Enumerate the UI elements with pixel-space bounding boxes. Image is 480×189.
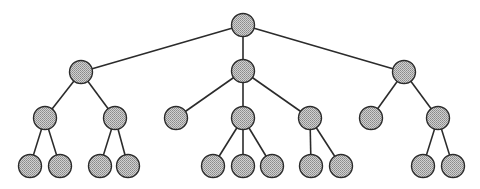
tree-leaf-node xyxy=(49,155,72,178)
tree-root-node xyxy=(232,14,255,37)
tree-leaf-node xyxy=(89,155,112,178)
tree-diagram-canvas xyxy=(0,0,480,189)
tree-diagram xyxy=(0,0,480,189)
tree-edge xyxy=(176,71,243,118)
tree-leaf-node xyxy=(261,155,284,178)
tree-leaf-node xyxy=(300,155,323,178)
tree-leaf-node xyxy=(202,155,225,178)
tree-node xyxy=(299,107,322,130)
tree-node xyxy=(104,107,127,130)
tree-node xyxy=(165,107,188,130)
tree-node xyxy=(427,107,450,130)
tree-node xyxy=(393,61,416,84)
tree-leaf-node xyxy=(232,155,255,178)
tree-node xyxy=(232,107,255,130)
tree-leaf-node xyxy=(412,155,435,178)
tree-leaf-node xyxy=(330,155,353,178)
tree-edge xyxy=(81,25,243,72)
tree-node xyxy=(360,107,383,130)
edges-layer xyxy=(30,25,453,166)
nodes-layer xyxy=(19,14,465,178)
tree-leaf-node xyxy=(117,155,140,178)
tree-leaf-node xyxy=(442,155,465,178)
tree-node xyxy=(34,107,57,130)
tree-edge xyxy=(243,71,310,118)
tree-node xyxy=(232,60,255,83)
tree-edge xyxy=(243,25,404,72)
tree-leaf-node xyxy=(19,155,42,178)
tree-node xyxy=(70,61,93,84)
